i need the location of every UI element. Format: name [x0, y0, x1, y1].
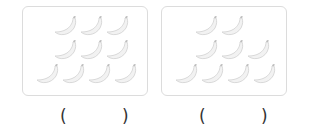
banana-icon [53, 15, 79, 37]
open-paren: ( [60, 106, 67, 126]
banana-icon [220, 39, 246, 61]
banana-icon [53, 39, 79, 61]
banana-icon [200, 63, 226, 85]
banana-panel-1 [22, 6, 148, 96]
close-paren: ) [122, 106, 129, 126]
open-paren: ( [199, 106, 206, 126]
banana-icon [113, 63, 139, 85]
banana-icon [246, 39, 272, 61]
banana-icon [61, 63, 87, 85]
banana-icon [174, 63, 200, 85]
banana-icon [35, 63, 61, 85]
banana-icon [105, 15, 131, 37]
banana-icon [252, 63, 278, 85]
banana-icon [220, 15, 246, 37]
banana-icon [194, 39, 220, 61]
banana-icon [194, 15, 220, 37]
answer-blank-1[interactable]: ( ) [60, 106, 130, 128]
banana-icon [87, 63, 113, 85]
close-paren: ) [261, 106, 268, 126]
answer-blank-2[interactable]: ( ) [199, 106, 269, 128]
banana-icon [79, 15, 105, 37]
banana-panel-2 [161, 6, 287, 96]
banana-icon [79, 39, 105, 61]
banana-icon [226, 63, 252, 85]
banana-icon [105, 39, 131, 61]
